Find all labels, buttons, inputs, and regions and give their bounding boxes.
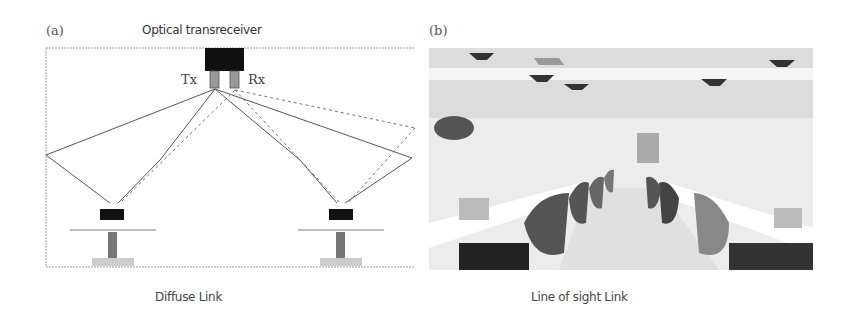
tx-label: Tx xyxy=(181,72,197,87)
desk-right xyxy=(298,209,384,266)
office-photo xyxy=(429,48,813,270)
line-of-sight-caption: Line of sight Link xyxy=(531,290,628,304)
solid-rays xyxy=(46,89,412,203)
desk-left xyxy=(70,209,156,266)
diffuse-link-caption: Diffuse Link xyxy=(155,290,222,304)
rx-label: Rx xyxy=(248,72,265,87)
transceiver-device xyxy=(205,48,244,88)
office-scene xyxy=(429,48,813,270)
panel-b-label: (b) xyxy=(429,23,447,38)
